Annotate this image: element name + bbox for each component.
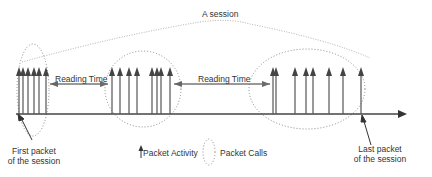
arrowhead-icon: [109, 67, 115, 76]
arrowhead-icon: [20, 67, 26, 76]
legend-packet-calls: Packet Calls: [220, 148, 267, 158]
packet-pointers: [18, 114, 371, 145]
arrowhead-icon: [31, 67, 37, 76]
first-packet-line-1: First packet: [6, 146, 62, 156]
reading-time-label-2: Reading Time: [198, 74, 250, 84]
reading-time-label-1: Reading Time: [55, 74, 107, 84]
arrowhead-icon: [326, 67, 332, 76]
legend-ellipse-icon: [203, 139, 215, 165]
last-packet-line-1: Last packet: [350, 144, 410, 154]
session-span-lines: [22, 20, 370, 62]
last-packet-label: Last packet of the session: [350, 144, 410, 164]
arrowhead-icon: [167, 67, 173, 76]
arrowhead-icon: [36, 67, 42, 76]
timeline-arrow-icon: [398, 110, 407, 118]
arrowhead-icon: [43, 67, 49, 76]
arrowhead-icon: [25, 67, 31, 76]
arrowhead-icon: [134, 67, 140, 76]
last-packet-line-2: of the session: [350, 154, 410, 164]
arrowhead-icon: [158, 67, 164, 76]
arrowhead-icon: [310, 67, 316, 76]
arrowhead-icon: [303, 67, 309, 76]
arrowhead-icon: [292, 67, 298, 76]
arrowhead-icon: [340, 67, 346, 76]
arrowhead-icon: [149, 67, 155, 76]
session-title: A session: [202, 9, 238, 19]
arrowhead-icon: [117, 67, 123, 76]
arrowhead-icon: [126, 67, 132, 76]
first-packet-label: First packet of the session: [6, 146, 62, 166]
legend-packet-activity: Packet Activity: [143, 148, 198, 158]
first-packet-line-2: of the session: [6, 156, 62, 166]
